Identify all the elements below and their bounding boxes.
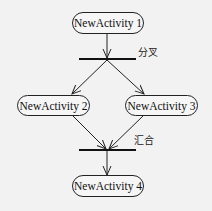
fork-bar bbox=[79, 58, 136, 60]
activity-node-2: NewActivity 2 bbox=[17, 95, 90, 116]
activity-node-1-label: NewActivity 1 bbox=[74, 17, 142, 29]
activity-node-4: NewActivity 4 bbox=[72, 175, 144, 197]
activity-diagram: NewActivity 1 分叉 NewActivity 2 NewActivi… bbox=[0, 0, 212, 211]
fork-label: 分叉 bbox=[138, 44, 158, 59]
edge-fork-a3 bbox=[107, 60, 144, 94]
activity-node-3-label: NewActivity 3 bbox=[127, 100, 195, 112]
activity-node-3: NewActivity 3 bbox=[125, 95, 198, 116]
edge-a2-join bbox=[72, 115, 106, 149]
edge-fork-a2 bbox=[72, 60, 107, 94]
activity-node-4-label: NewActivity 4 bbox=[74, 180, 142, 192]
activity-node-1: NewActivity 1 bbox=[72, 12, 144, 34]
join-label: 汇合 bbox=[134, 132, 154, 147]
join-bar bbox=[79, 149, 136, 151]
activity-node-2-label: NewActivity 2 bbox=[19, 100, 87, 112]
